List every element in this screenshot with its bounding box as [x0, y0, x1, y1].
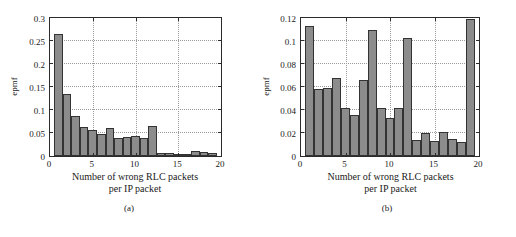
bar: [114, 138, 123, 156]
bar: [314, 89, 323, 156]
x-axis-tick-mark: [390, 153, 391, 156]
bar: [208, 153, 217, 156]
x-axis-tick-mark: [93, 153, 94, 156]
y-tick-label: 0.05: [29, 130, 45, 139]
y-axis-tick-mark: [476, 86, 479, 87]
x-axis-tick-mark: [93, 18, 94, 21]
bar: [359, 80, 368, 156]
x-tick-label: 15: [173, 160, 182, 169]
bar: [412, 140, 421, 156]
subcaption-b: (b): [258, 203, 516, 214]
y-tick-label: 0.3: [34, 15, 45, 24]
chart-panel-b: epmf 00.020.040.060.080.10.12 05101520 N…: [258, 0, 516, 237]
y-tick-label: 0.2: [34, 61, 45, 70]
x-tick-label: 0: [298, 160, 303, 169]
bar: [71, 116, 80, 156]
y-tick-label: 0.02: [280, 130, 296, 139]
x-axis-tick-mark: [435, 153, 436, 156]
bar: [123, 137, 132, 156]
bar: [97, 134, 106, 156]
y-axis-tick-mark: [476, 40, 479, 41]
bar: [54, 34, 63, 156]
x-axis-tick-mark: [435, 18, 436, 21]
chart-panel-a: epmf 00.050.10.150.20.250.3 05101520 Num…: [0, 0, 258, 237]
bar: [183, 154, 192, 156]
y-axis-tick-mark: [218, 86, 221, 87]
y-axis-tick-mark: [50, 86, 53, 87]
y-axis-tick-mark: [50, 40, 53, 41]
y-axis-tick-mark: [476, 63, 479, 64]
y-tick-label: 0.15: [29, 84, 45, 93]
y-axis-tick-mark: [218, 40, 221, 41]
bar: [368, 30, 377, 157]
y-tick-label: 0.1: [34, 107, 45, 116]
y-tick-label: 0.12: [280, 15, 296, 24]
bar: [323, 88, 332, 156]
bar: [140, 138, 149, 156]
bars-layer-a: [50, 18, 221, 156]
y-tick-label: 0: [292, 153, 297, 162]
bar: [157, 153, 166, 156]
bar: [403, 38, 412, 156]
y-tick-label: 0.1: [285, 38, 296, 47]
x-tick-label: 10: [130, 160, 139, 169]
plot-inner-a: [50, 18, 221, 156]
x-axis-tick-mark: [136, 18, 137, 21]
y-tick-labels-a: 00.050.10.150.20.250.3: [6, 17, 45, 157]
bar: [165, 153, 174, 156]
y-axis-tick-mark: [218, 63, 221, 64]
plot-area-a: [49, 17, 222, 157]
y-axis-tick-mark: [218, 132, 221, 133]
y-axis-tick-mark: [301, 132, 304, 133]
figure-container: epmf 00.050.10.150.20.250.3 05101520 Num…: [0, 0, 516, 237]
x-tick-label: 15: [429, 160, 438, 169]
x-tick-label: 5: [90, 160, 95, 169]
y-axis-tick-mark: [218, 109, 221, 110]
bar: [466, 19, 475, 156]
y-axis-tick-mark: [50, 63, 53, 64]
bar: [106, 128, 115, 156]
bar: [457, 142, 466, 156]
bar: [439, 132, 448, 156]
bar: [448, 139, 457, 156]
bar: [332, 78, 341, 156]
bar: [305, 26, 314, 156]
x-axis-title-a: Number of wrong RLC packets per IP packe…: [30, 171, 240, 195]
bar: [350, 115, 359, 156]
y-axis-tick-mark: [301, 63, 304, 64]
x-axis-title-line1-a: Number of wrong RLC packets: [30, 171, 240, 183]
bar: [63, 94, 72, 156]
x-axis-title-line1-b: Number of wrong RLC packets: [283, 171, 498, 183]
bar: [191, 151, 200, 156]
y-tick-label: 0: [41, 153, 46, 162]
bar: [394, 108, 403, 156]
y-tick-label: 0.25: [29, 38, 45, 47]
bar: [80, 127, 89, 156]
bar: [200, 152, 209, 156]
bar: [421, 133, 430, 156]
bar: [341, 108, 350, 156]
y-axis-tick-mark: [50, 109, 53, 110]
x-axis-title-line2-a: per IP packet: [30, 183, 240, 195]
x-axis-tick-mark: [178, 153, 179, 156]
x-axis-title-b: Number of wrong RLC packets per IP packe…: [283, 171, 498, 195]
y-axis-tick-mark: [301, 40, 304, 41]
plot-area-b: [300, 17, 480, 157]
x-tick-label: 5: [342, 160, 347, 169]
y-tick-labels-b: 00.020.040.060.080.10.12: [258, 17, 296, 157]
subcaption-a: (a): [0, 203, 258, 214]
x-tick-label: 20: [474, 160, 483, 169]
x-axis-tick-mark: [178, 18, 179, 21]
plot-inner-b: [301, 18, 479, 156]
bar: [386, 118, 395, 156]
x-axis-tick-mark: [136, 153, 137, 156]
bar: [377, 108, 386, 156]
y-axis-tick-mark: [301, 109, 304, 110]
x-tick-label: 0: [47, 160, 52, 169]
bars-layer-b: [301, 18, 479, 156]
y-axis-tick-mark: [476, 132, 479, 133]
bar: [148, 126, 157, 156]
y-tick-label: 0.04: [280, 107, 296, 116]
y-axis-tick-mark: [476, 109, 479, 110]
y-tick-label: 0.06: [280, 84, 296, 93]
